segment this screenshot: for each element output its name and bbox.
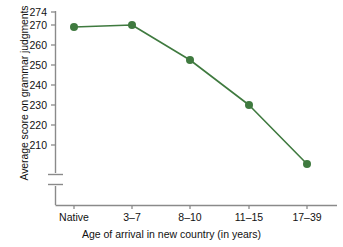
data-series-line [74,25,307,164]
data-point [245,101,253,109]
chart-container: Average score on grammar judgments 274 2… [0,0,343,247]
data-point [186,56,194,64]
x-tick-label: 11–15 [235,212,263,223]
x-tick-label: 3–7 [123,212,141,223]
plot-area [0,0,343,247]
x-tick-label: Native [59,212,89,223]
x-axis-title: Age of arrival in new country (in years) [0,228,343,240]
x-tick-label: 8–10 [178,212,201,223]
data-point [70,23,78,31]
data-point [303,160,311,168]
data-point-markers [70,21,311,168]
data-point [128,21,136,29]
x-tick-label: 17–39 [292,212,321,223]
